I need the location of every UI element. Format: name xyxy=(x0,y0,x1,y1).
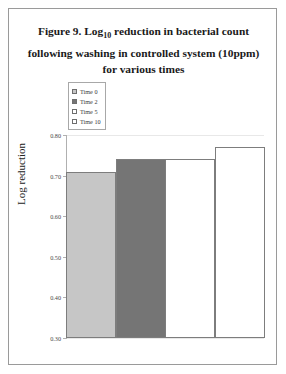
plot-area: 0.800.700.600.500.400.30 xyxy=(66,135,264,339)
y-tick-label: 0.40 xyxy=(50,294,61,301)
legend-swatch-icon xyxy=(72,109,77,114)
legend-item: Time 5 xyxy=(72,106,101,116)
gridline xyxy=(67,135,264,136)
figure-frame: Figure 9. Log10 reduction in bacterial c… xyxy=(8,8,277,365)
y-tick-mark xyxy=(63,135,67,136)
legend-item: Time 0 xyxy=(72,86,101,96)
legend-item: Time 2 xyxy=(72,96,101,106)
bar-time-5 xyxy=(165,159,215,338)
legend-item-label: Time 2 xyxy=(80,98,97,105)
legend-swatch-icon xyxy=(72,89,77,94)
bar-chart: Log reduction 0.800.700.600.500.400.30 T… xyxy=(9,9,278,366)
legend-swatch-icon xyxy=(72,99,77,104)
y-tick-label: 0.50 xyxy=(50,253,61,260)
y-tick-label: 0.30 xyxy=(50,335,61,342)
legend-item-label: Time 5 xyxy=(80,108,97,115)
legend-item: Time 10 xyxy=(72,116,101,126)
gridline xyxy=(67,338,264,339)
y-tick-label: 0.60 xyxy=(50,213,61,220)
y-axis-title: Log reduction xyxy=(15,143,27,205)
chart-legend: Time 0Time 2Time 5Time 10 xyxy=(68,82,106,130)
bar-time-2 xyxy=(116,159,166,338)
bar-time-10 xyxy=(215,147,265,338)
y-tick-mark xyxy=(63,338,67,339)
legend-item-label: Time 10 xyxy=(80,118,101,125)
legend-swatch-icon xyxy=(72,119,77,124)
legend-item-label: Time 0 xyxy=(80,88,97,95)
y-tick-label: 0.80 xyxy=(50,132,61,139)
bar-time-0 xyxy=(66,172,116,338)
y-tick-label: 0.70 xyxy=(50,172,61,179)
